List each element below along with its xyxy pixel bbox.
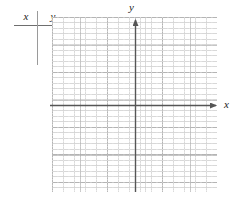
- grid-minor-dot-texture: [52, 17, 217, 192]
- table-column-header-x: x: [14, 8, 38, 24]
- y-axis-label: y: [129, 2, 134, 13]
- coordinate-grid: [52, 17, 217, 192]
- worksheet-canvas: x y x y: [0, 0, 238, 201]
- table-column-divider: [37, 11, 38, 65]
- x-axis-label: x: [224, 99, 229, 110]
